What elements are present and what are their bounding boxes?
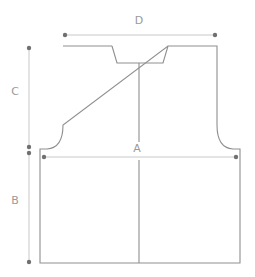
dimension-c-label: C [11,85,19,98]
dimension-c-bottom-dot [27,145,31,149]
dimension-d-end-dot [213,33,217,37]
dimension-b-bottom-dot [27,260,31,264]
dimension-a-label: A [133,142,141,155]
dimension-d-label: D [135,14,143,27]
dimension-a-start-dot [42,155,46,159]
garment-schematic: D A C B [0,0,255,277]
dimension-d: D [63,14,217,37]
dimension-c-top-dot [27,46,31,50]
dimension-b-label: B [11,194,19,207]
dimension-b: B [11,151,31,264]
neckline [112,46,168,63]
dimension-a-end-dot [234,155,238,159]
dimension-d-start-dot [63,33,67,37]
dimension-a: A [42,142,238,159]
dimension-c: C [11,46,31,149]
dimension-b-top-dot [27,151,31,155]
